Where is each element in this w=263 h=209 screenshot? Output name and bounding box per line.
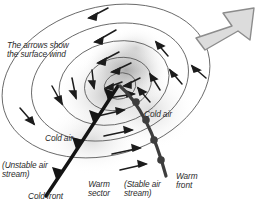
wind-arrow-icon [20, 108, 34, 124]
warm-sector-label: Warm sector [80, 180, 118, 199]
cold-air-right-label: Cold air [144, 110, 172, 119]
unstable-stream-label: (Unstable air stream) [2, 161, 58, 180]
warm-front-semicircle-icon [157, 156, 165, 164]
system-movement-arrow-icon [196, 8, 254, 50]
cold-air-left-label: Cold air [45, 134, 73, 143]
wind-arrow-icon [192, 66, 206, 78]
warm-front-semicircle-icon [132, 98, 140, 106]
warm-front-semicircle-icon [150, 136, 158, 144]
stable-stream-label: (Stable air stream) [124, 180, 174, 199]
wind-arrow-icon [89, 8, 108, 20]
cold-front-label: Cold front [28, 192, 63, 201]
frontal-depression-diagram: The arrows show the surface wind Cold ai… [0, 0, 263, 209]
warm-front-label: Warm front [176, 172, 212, 191]
arrows-note-label: The arrows show the surface wind [7, 41, 99, 60]
